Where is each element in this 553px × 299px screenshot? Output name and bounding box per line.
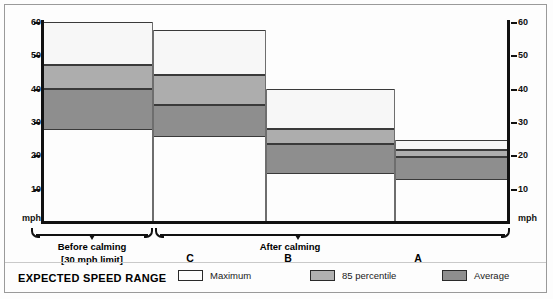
y-tick-label: 10: [518, 185, 528, 194]
segment-85-percentile: [267, 129, 394, 144]
segment-maximum: [44, 22, 152, 65]
y-tick-label: 20: [9, 151, 41, 160]
legend-label-85-percentile: 85 percentile: [342, 270, 396, 281]
y-tick-label: 10: [9, 185, 41, 194]
group-sublabel-before-calming: [30 mph limit]: [31, 254, 153, 265]
y-tick-label: 60: [9, 18, 41, 27]
segment-average: [396, 157, 507, 180]
y-tick-label: 50: [518, 51, 528, 60]
segment-maximum: [154, 30, 265, 75]
bracket-after-calming: [155, 228, 510, 237]
legend-item-maximum: Maximum: [178, 270, 251, 281]
bar-before-calming: [43, 22, 153, 222]
y-tick-label: 20: [518, 151, 528, 160]
bar-b: [266, 89, 395, 222]
segment-85-percentile: [396, 150, 507, 157]
segment-85-percentile: [44, 65, 152, 88]
legend-item-85-percentile: 85 percentile: [310, 270, 396, 281]
y-tick-label: 30: [9, 118, 41, 127]
legend-title: EXPECTED SPEED RANGE: [18, 272, 166, 284]
y-axis-right-labels: 60 50 40 30 20 10 mph: [510, 0, 553, 299]
bar-a: [395, 140, 508, 222]
chart-screenshot: 60 50 40 30 20 10 mph 60 50 40 30 20 10 …: [0, 0, 553, 299]
legend-swatch-maximum: [178, 270, 203, 281]
legend-swatch-85-percentile: [310, 270, 335, 281]
segment-average: [44, 89, 152, 131]
y-tick-label: 40: [9, 85, 41, 94]
legend-label-average: Average: [474, 270, 509, 281]
y-tick-label: 50: [9, 51, 41, 60]
group-label-before-calming: Before calming: [31, 241, 153, 252]
legend-label-maximum: Maximum: [210, 270, 251, 281]
plot-area: [43, 22, 508, 222]
segment-average: [267, 144, 394, 174]
y-tick-label: 40: [518, 85, 528, 94]
legend-item-average: Average: [442, 270, 509, 281]
group-label-after-calming: After calming: [230, 241, 350, 252]
y-tick-label: 30: [518, 118, 528, 127]
y-tick-label: 60: [518, 18, 528, 27]
y-axis-left: [41, 20, 44, 224]
x-axis: [41, 221, 510, 224]
y-axis-unit-right: mph: [518, 214, 537, 223]
legend-divider: [5, 262, 546, 263]
legend-swatch-average: [442, 270, 467, 281]
bracket-before-calming: [31, 228, 153, 237]
segment-maximum: [267, 89, 394, 129]
bar-c: [153, 30, 266, 222]
segment-maximum: [396, 140, 507, 150]
segment-85-percentile: [154, 75, 265, 105]
segment-average: [154, 105, 265, 137]
y-axis-unit-left: mph: [9, 214, 41, 223]
